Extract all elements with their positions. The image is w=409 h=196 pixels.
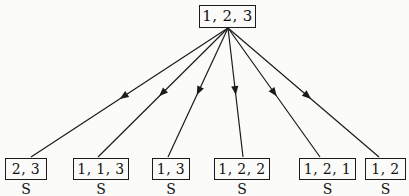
tree-edge bbox=[31, 28, 228, 157]
tree-leaf-node: 1, 2 bbox=[365, 158, 406, 180]
tree-leaf-node: 1, 2, 2 bbox=[214, 158, 270, 180]
tree-edge bbox=[168, 28, 228, 157]
tree-edge-arrowhead bbox=[302, 90, 311, 99]
tree-leaf-sublabel: S bbox=[5, 182, 47, 196]
tree-edge-arrowhead bbox=[120, 91, 130, 99]
tree-leaf-sublabel: S bbox=[299, 182, 356, 196]
tree-leaf-node-label: 1, 1, 3 bbox=[77, 162, 124, 176]
tree-edge-arrowhead bbox=[269, 87, 277, 96]
tree-leaf-node: 2, 3 bbox=[5, 158, 47, 180]
tree-leaf-sublabel: S bbox=[365, 182, 406, 196]
tree-leaf-sublabel: S bbox=[73, 182, 129, 196]
tree-leaf-node: 1, 2, 1 bbox=[299, 158, 356, 180]
tree-leaf-node-label: 1, 2, 1 bbox=[304, 162, 351, 176]
tree-leaf-node: 1, 1, 3 bbox=[73, 158, 129, 180]
tree-leaf-node-label: 1, 2 bbox=[371, 162, 399, 176]
tree-edge-arrowhead bbox=[231, 86, 238, 95]
tree-edge bbox=[228, 28, 243, 157]
tree-leaf-node-label: 1, 2, 2 bbox=[218, 162, 265, 176]
tree-root-node-label: 1, 2, 3 bbox=[202, 9, 253, 24]
tree-root-node: 1, 2, 3 bbox=[199, 5, 256, 28]
tree-edge-arrowhead bbox=[159, 87, 168, 96]
tree-leaf-node-label: 1, 3 bbox=[157, 162, 185, 176]
tree-leaf-node-label: 2, 3 bbox=[12, 162, 40, 176]
tree-edge-arrowhead bbox=[197, 85, 204, 95]
tree-leaf-sublabel: S bbox=[214, 182, 270, 196]
tree-diagram: 1, 2, 3 2, 3S1, 1, 3S1, 3S1, 2, 2S1, 2, … bbox=[0, 0, 409, 196]
tree-edge bbox=[228, 28, 320, 157]
tree-leaf-node: 1, 3 bbox=[152, 158, 190, 180]
tree-edge bbox=[98, 28, 228, 157]
tree-edge bbox=[228, 28, 379, 157]
tree-leaf-sublabel: S bbox=[152, 182, 190, 196]
